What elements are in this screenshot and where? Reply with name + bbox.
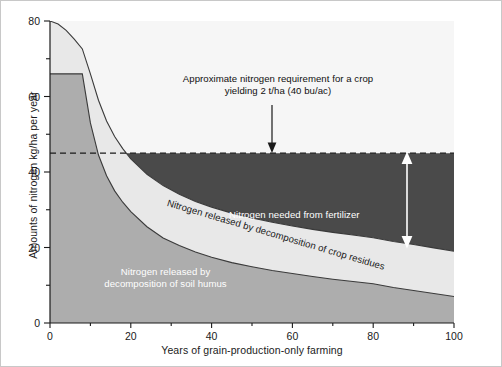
x-axis-title: Years of grain-production-only farming xyxy=(1,344,502,356)
annotation-nitrogen-from-soil-humus: Nitrogen released by decomposition of so… xyxy=(73,266,258,291)
svg-text:60: 60 xyxy=(287,330,299,342)
svg-text:80: 80 xyxy=(367,330,379,342)
chart-canvas: 020406080100020406080 xyxy=(1,1,502,367)
svg-text:0: 0 xyxy=(34,317,40,329)
annotation-nitrogen-from-fertilizer: Nitrogen needed from fertilizer xyxy=(229,209,429,221)
svg-text:80: 80 xyxy=(28,15,40,27)
chart-figure: 020406080100020406080 Amounts of nitroge… xyxy=(0,0,502,367)
annotation-nitrogen-requirement: Approximate nitrogen requirement for a c… xyxy=(153,73,403,98)
svg-text:100: 100 xyxy=(445,330,463,342)
y-axis-title: Amounts of nitrogen kg/ha per year xyxy=(27,85,39,265)
svg-text:0: 0 xyxy=(47,330,53,342)
svg-text:40: 40 xyxy=(206,330,218,342)
svg-text:20: 20 xyxy=(125,330,137,342)
